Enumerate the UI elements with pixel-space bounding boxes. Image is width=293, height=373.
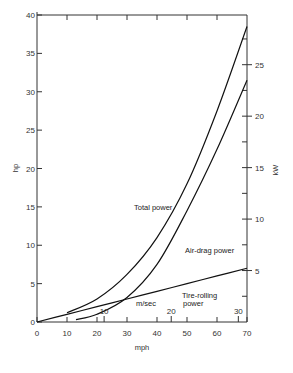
m-per-sec-label: m/sec xyxy=(136,299,156,308)
x-tick-label: 30 xyxy=(123,329,132,338)
curves xyxy=(37,27,247,322)
x-tick-label: 20 xyxy=(93,329,102,338)
x2-tick-label: 10 xyxy=(100,307,109,316)
y2-axis-title: kW xyxy=(271,164,280,176)
y2-tick-label: 5 xyxy=(255,267,260,276)
y-tick-label: 30 xyxy=(26,88,35,97)
x2-tick-label: 30 xyxy=(234,307,243,316)
x-tick-label: 40 xyxy=(153,329,162,338)
y-tick-label: 5 xyxy=(31,280,36,289)
x-tick-label: 10 xyxy=(63,329,72,338)
y-tick-label: 0 xyxy=(31,318,36,327)
x-axis-title: mph xyxy=(135,343,150,352)
air-drag-power-label: Air-drag power xyxy=(185,246,235,255)
x2-tick-label: 20 xyxy=(167,307,176,316)
x-tick-label: 0 xyxy=(35,329,40,338)
x-tick-label: 60 xyxy=(213,329,222,338)
y2-tick-label: 25 xyxy=(255,61,264,70)
y-tick-label: 40 xyxy=(26,11,35,20)
y-tick-label: 10 xyxy=(26,241,35,250)
total-power-curve xyxy=(67,27,247,313)
air-drag-power-curve xyxy=(76,80,247,319)
power-chart: 0510152025303540010203040506070510152025… xyxy=(0,0,293,373)
x-tick-label: 70 xyxy=(243,329,252,338)
y2-tick-label: 10 xyxy=(255,215,264,224)
y2-tick-label: 20 xyxy=(255,112,264,121)
total-power-label: Total power xyxy=(134,203,173,212)
labels: 0510152025303540010203040506070510152025… xyxy=(11,11,280,352)
tire-rolling-label-line2: power xyxy=(183,299,204,308)
y-axis-title: hp xyxy=(11,164,20,172)
y2-tick-label: 15 xyxy=(255,164,264,173)
y-tick-label: 25 xyxy=(26,126,35,135)
y-tick-label: 15 xyxy=(26,203,35,212)
y-tick-label: 35 xyxy=(26,49,35,58)
x-tick-label: 50 xyxy=(183,329,192,338)
y-tick-label: 20 xyxy=(26,165,35,174)
